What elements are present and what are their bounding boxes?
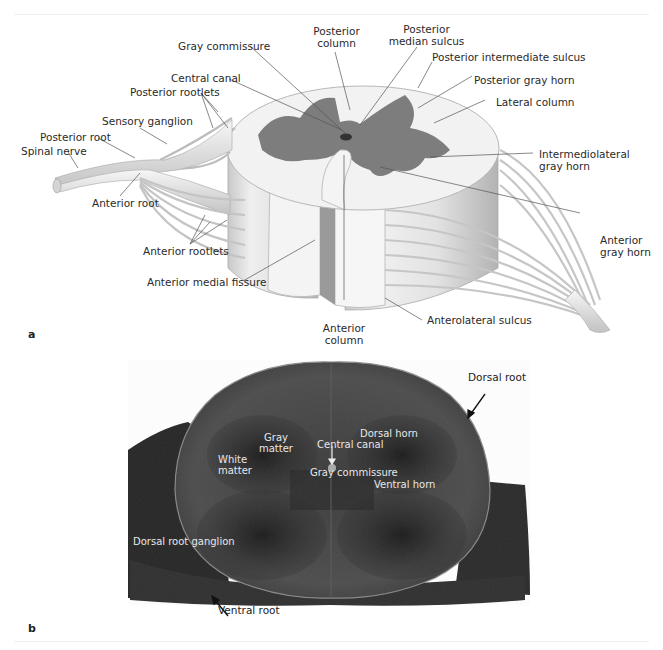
label-intermediolateral-gray-horn: Intermediolateral gray horn xyxy=(539,148,630,172)
label-posterior-gray-horn: Posterior gray horn xyxy=(474,74,575,86)
label-anterior-gray-horn: Anterior gray horn xyxy=(600,234,651,258)
label-anterior-rootlets: Anterior rootlets xyxy=(143,245,229,257)
label-spinal-nerve: Spinal nerve xyxy=(21,145,87,157)
panel-a-illustration: Gray commissure Posterior column Posteri… xyxy=(0,0,663,350)
label-posterior-column-line1: Posterior xyxy=(309,25,364,37)
label-dorsal-root-ganglion: Dorsal root ganglion xyxy=(133,536,235,547)
label-ventral-horn: Ventral horn xyxy=(374,479,435,490)
label-anterior-gray-horn-line2: gray horn xyxy=(600,246,651,258)
label-anterolateral-sulcus: Anterolateral sulcus xyxy=(427,314,532,326)
panel-label-a: a xyxy=(28,328,35,341)
label-posterior-rootlets: Posterior rootlets xyxy=(130,86,220,98)
label-gray-commissure: Gray commissure xyxy=(178,40,270,52)
label-posterior-column-line2: column xyxy=(309,37,364,49)
label-gray-matter-line1: Gray xyxy=(258,432,294,443)
label-central-canal: Central canal xyxy=(171,72,241,84)
label-anterior-gray-horn-line1: Anterior xyxy=(600,234,651,246)
label-posterior-median-sulcus-line2: median sulcus xyxy=(384,35,469,47)
label-intermediolateral-line2: gray horn xyxy=(539,160,630,172)
label-posterior-intermediate-sulcus: Posterior intermediate sulcus xyxy=(432,51,586,63)
label-white-matter-line2: matter xyxy=(218,465,252,476)
label-ventral-root: Ventral root xyxy=(218,605,280,616)
panel-label-b: b xyxy=(28,622,36,635)
label-posterior-column: Posterior column xyxy=(309,25,364,49)
label-posterior-median-sulcus: Posterior median sulcus xyxy=(384,23,469,47)
label-central-canal-micro: Central canal xyxy=(317,439,383,450)
label-anterior-root: Anterior root xyxy=(92,197,159,209)
label-anterior-medial-fissure: Anterior medial fissure xyxy=(147,276,266,288)
spinal-cord-micrograph xyxy=(0,350,663,650)
label-sensory-ganglion: Sensory ganglion xyxy=(102,115,193,127)
label-gray-matter: Gray matter xyxy=(258,432,294,454)
label-anterior-column-line2: column xyxy=(318,334,370,346)
label-white-matter: White matter xyxy=(218,454,252,476)
label-dorsal-horn: Dorsal horn xyxy=(360,428,418,439)
label-anterior-column-line1: Anterior xyxy=(318,322,370,334)
label-dorsal-root: Dorsal root xyxy=(468,372,526,383)
label-anterior-column: Anterior column xyxy=(318,322,370,346)
label-posterior-median-sulcus-line1: Posterior xyxy=(384,23,469,35)
bottom-divider xyxy=(14,641,649,642)
label-lateral-column: Lateral column xyxy=(496,96,575,108)
label-gray-matter-line2: matter xyxy=(258,443,294,454)
label-intermediolateral-line1: Intermediolateral xyxy=(539,148,630,160)
label-white-matter-line1: White xyxy=(218,454,252,465)
label-posterior-root: Posterior root xyxy=(40,131,111,143)
label-gray-commissure-micro: Gray commissure xyxy=(310,467,398,478)
panel-b-micrograph: Dorsal root Gray matter Dorsal horn Cent… xyxy=(0,350,663,650)
